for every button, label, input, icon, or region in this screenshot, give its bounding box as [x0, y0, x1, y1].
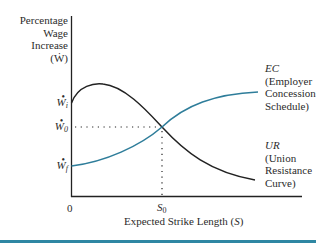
dot-accent-icon: •	[60, 115, 64, 126]
dot-accent-icon: •	[62, 154, 66, 165]
ec-name-line-1: (Employer	[265, 75, 316, 88]
tick-subscript: 0	[64, 125, 68, 134]
x-axis-label: Expected Strike Length (S)	[124, 215, 243, 227]
tick-w-0: •W0	[55, 120, 68, 134]
y-label-line-3: Increase	[20, 39, 68, 52]
ur-name-line-1: (Union	[265, 152, 312, 165]
tick-w-f: •Wf	[57, 159, 68, 173]
tick-subscript: f	[66, 164, 68, 173]
ur-curve-label: UR (Union Resistance Curve)	[265, 139, 312, 189]
x-label-suffix: )	[240, 215, 244, 227]
ur-name-line-2: Resistance	[265, 164, 312, 177]
tick-s-0: S0	[157, 201, 167, 215]
footer-rule	[0, 240, 316, 243]
ec-abbr: EC	[265, 62, 316, 75]
tick-subscript: 0	[163, 206, 167, 215]
ur-curve	[72, 84, 256, 180]
ur-abbr: UR	[265, 139, 312, 152]
ec-name-line-3: Schedule)	[265, 100, 316, 113]
y-label-line-2: Wage	[20, 27, 68, 40]
x-label-text: Expected Strike Length (	[124, 215, 234, 227]
y-axis-label: Percentage Wage Increase (Ẇ)	[20, 14, 68, 64]
ur-name-line-3: Curve)	[265, 177, 312, 190]
dot-accent-icon: •	[62, 91, 66, 102]
ec-curve-label: EC (Employer Concession Schedule)	[265, 62, 316, 112]
tick-w-i: •Wi	[57, 96, 68, 110]
tick-subscript: i	[66, 101, 68, 110]
y-label-line-4: (Ẇ)	[20, 52, 68, 65]
ec-name-line-2: Concession	[265, 87, 316, 100]
origin-label: 0	[67, 202, 73, 214]
y-label-line-1: Percentage	[20, 14, 68, 27]
